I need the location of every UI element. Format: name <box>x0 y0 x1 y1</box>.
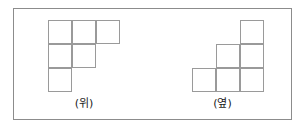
unit-square <box>216 68 240 92</box>
unit-square <box>240 20 264 44</box>
empty-slot <box>96 68 120 92</box>
empty-slot <box>216 20 240 44</box>
unit-square <box>48 68 72 92</box>
unit-square <box>48 20 72 44</box>
panel-top-view: (위) <box>14 9 154 121</box>
unit-square <box>240 68 264 92</box>
unit-square <box>48 44 72 68</box>
unit-square <box>72 44 96 68</box>
empty-slot <box>72 68 96 92</box>
figure-outer-frame: (위) (옆) <box>13 8 292 120</box>
unit-square <box>240 44 264 68</box>
unit-square <box>96 20 120 44</box>
view-label-top: (위) <box>14 97 154 111</box>
view-label-side: (옆) <box>154 97 291 111</box>
shape-grid-side-view <box>192 20 264 92</box>
shape-grid-top-view <box>48 20 120 92</box>
empty-slot <box>192 20 216 44</box>
empty-slot <box>96 44 120 68</box>
unit-square <box>216 44 240 68</box>
panel-side-view: (옆) <box>154 9 291 121</box>
empty-slot <box>192 44 216 68</box>
unit-square <box>192 68 216 92</box>
figure-root: (위) (옆) <box>0 0 306 128</box>
unit-square <box>72 20 96 44</box>
